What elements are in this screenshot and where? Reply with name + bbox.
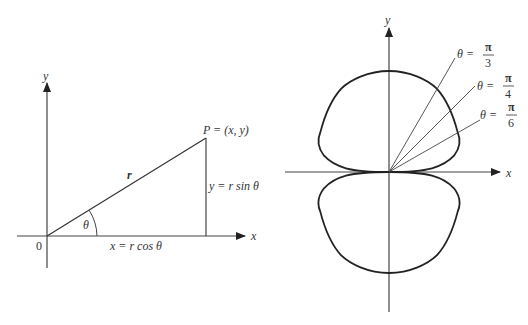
diagram-canvas: y x 0 P = (x, y) r θ x = r cos θ y = r s… <box>0 0 528 325</box>
ray-pi-over-6 <box>389 120 480 172</box>
svg-text:θ =: θ = <box>477 79 494 93</box>
svg-text:6: 6 <box>508 116 514 130</box>
svg-text:θ =: θ = <box>480 108 497 122</box>
svg-text:π: π <box>508 100 515 114</box>
svg-text:4: 4 <box>505 87 511 101</box>
x-component-label: x = r cos θ <box>109 239 162 253</box>
ray-pi-over-3 <box>389 58 455 172</box>
y-axis-label: y <box>384 13 391 27</box>
x-axis-label: x <box>250 229 257 243</box>
y-axis-label: y <box>42 69 49 83</box>
svg-text:π: π <box>505 71 512 85</box>
radius-label: r <box>127 168 132 182</box>
point-label: P = (x, y) <box>202 123 249 137</box>
ray-label-pi-over-6: θ = π 6 <box>480 100 517 130</box>
origin-label: 0 <box>36 239 42 253</box>
ray-label-pi-over-3: θ = π 3 <box>457 40 494 70</box>
svg-text:θ =: θ = <box>457 47 474 61</box>
ray-label-pi-over-4: θ = π 4 <box>477 71 514 101</box>
polar-curve-figure: y x θ = π 3 θ = π 4 θ = π 6 <box>285 13 517 312</box>
ray-pi-over-4 <box>389 86 475 172</box>
svg-text:3: 3 <box>485 56 491 70</box>
angle-arc <box>89 210 97 236</box>
radius-line <box>47 138 206 236</box>
x-axis-label: x <box>505 166 512 180</box>
y-component-label: y = r sin θ <box>208 179 259 193</box>
cartesian-polar-figure: y x 0 P = (x, y) r θ x = r cos θ y = r s… <box>17 69 259 268</box>
svg-text:π: π <box>485 40 492 54</box>
angle-label: θ <box>83 218 89 232</box>
